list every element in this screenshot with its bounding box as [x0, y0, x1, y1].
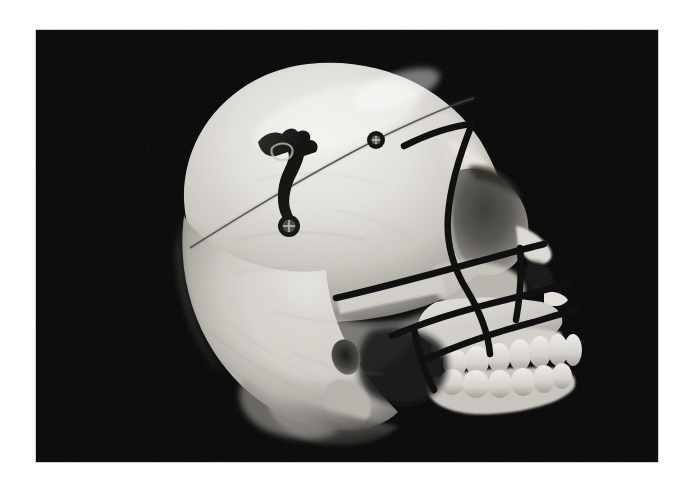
page-root	[0, 0, 696, 484]
skull-lateral-radiographic-photo	[36, 30, 658, 462]
skull-photograph	[36, 30, 658, 462]
film-grain-overlay	[36, 30, 658, 462]
